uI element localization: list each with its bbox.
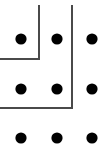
dot-row1-col1 <box>15 33 26 44</box>
dot-grid-figure <box>0 0 109 153</box>
dot-row2-col3 <box>86 83 97 94</box>
dot-grid-group <box>15 33 97 143</box>
dot-row3-col2 <box>51 132 62 143</box>
dot-row2-col1 <box>15 83 26 94</box>
dot-row3-col1 <box>15 132 26 143</box>
figure-canvas <box>0 0 109 153</box>
dot-row2-col2 <box>51 83 62 94</box>
dot-row1-col3 <box>86 33 97 44</box>
dot-row1-col2 <box>51 33 62 44</box>
dot-row3-col3 <box>86 132 97 143</box>
wall-upper-left <box>0 5 39 59</box>
